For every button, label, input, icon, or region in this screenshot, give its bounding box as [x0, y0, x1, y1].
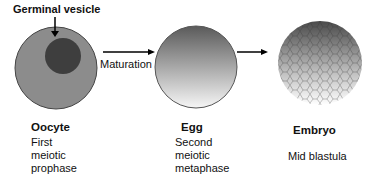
stage-title-oocyte: Oocyte [31, 121, 70, 133]
stage-title-egg: Egg [181, 121, 203, 133]
germinal-vesicle-nucleus [45, 38, 81, 74]
germinal-vesicle-label: Germinal vesicle [13, 3, 100, 15]
oocyte-cell [15, 27, 97, 109]
stage-desc-egg: Secondmeioticmetaphase [175, 136, 229, 175]
stage-desc-oocyte: Firstmeioticprophase [31, 136, 77, 175]
egg-cell [155, 26, 237, 108]
embryo-cell [278, 21, 362, 105]
stage-desc-embryo: Mid blastula [288, 150, 347, 163]
stage-title-embryo: Embryo [293, 124, 336, 136]
maturation-label: Maturation [100, 58, 152, 70]
